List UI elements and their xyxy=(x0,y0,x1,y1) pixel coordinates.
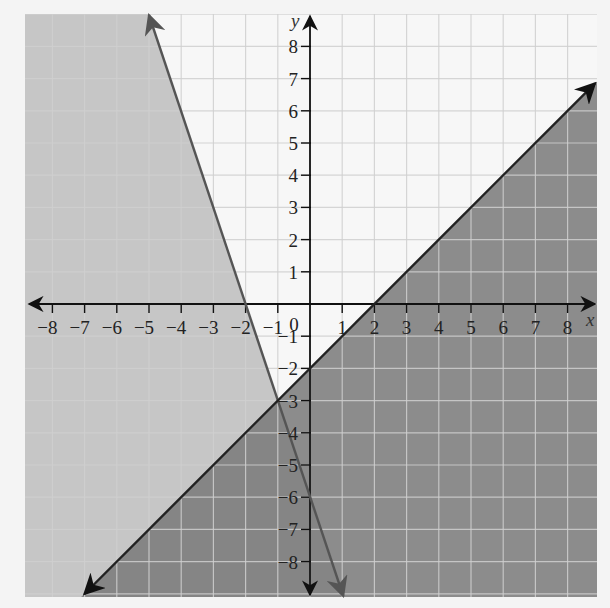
origin-label: 0 xyxy=(289,314,299,335)
x-tick-label: −8 xyxy=(37,317,57,338)
y-tick-label: 5 xyxy=(289,133,299,154)
x-tick-label: 7 xyxy=(531,317,541,338)
x-tick-label: −3 xyxy=(198,317,218,338)
y-tick-label: −2 xyxy=(278,358,298,379)
y-tick-label: −5 xyxy=(278,455,298,476)
x-tick-label: 1 xyxy=(337,317,347,338)
y-axis-label: y xyxy=(289,10,300,31)
y-tick-label: 3 xyxy=(289,197,299,218)
y-tick-label: 8 xyxy=(289,36,299,57)
x-tick-label: −5 xyxy=(134,317,154,338)
x-tick-label: 2 xyxy=(370,317,380,338)
y-tick-label: 6 xyxy=(289,101,299,122)
x-tick-label: −2 xyxy=(230,317,250,338)
x-tick-label: 5 xyxy=(466,317,476,338)
y-tick-label: 1 xyxy=(289,262,299,283)
x-tick-label: 8 xyxy=(563,317,573,338)
y-tick-label: 7 xyxy=(289,69,299,90)
y-tick-label: −8 xyxy=(278,552,298,573)
y-tick-label: −3 xyxy=(278,391,298,412)
x-axis-label: x xyxy=(585,309,595,330)
y-tick-label: −7 xyxy=(278,519,298,540)
y-tick-label: 2 xyxy=(289,230,299,251)
y-tick-label: 4 xyxy=(289,165,299,186)
y-tick-label: −6 xyxy=(278,487,298,508)
y-tick-label: −4 xyxy=(278,423,299,444)
x-tick-label: −4 xyxy=(166,317,187,338)
x-tick-label: −6 xyxy=(102,317,122,338)
x-tick-label: 4 xyxy=(434,317,444,338)
inequality-graph: −8−7−6−5−4−3−2−112345678 −8−7−6−5−4−3−2−… xyxy=(0,0,610,608)
x-tick-label: 6 xyxy=(498,317,508,338)
x-tick-label: −7 xyxy=(69,317,89,338)
x-tick-label: 3 xyxy=(402,317,412,338)
